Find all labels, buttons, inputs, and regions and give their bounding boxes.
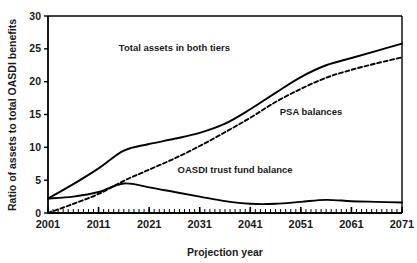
y-tick-label: 30 [29, 10, 41, 22]
x-tick-label: 2051 [289, 218, 313, 230]
x-tick-label: 2041 [238, 218, 262, 230]
x-tick-label: 2031 [187, 218, 211, 230]
x-tick-label: 2061 [339, 218, 363, 230]
y-tick-label: 10 [29, 141, 41, 153]
series-annotation-3: OASDI trust fund balance [178, 164, 293, 175]
line-chart: 051015202530 200120112021203120412051206… [0, 0, 417, 263]
series-annotation-2: PSA balances [280, 106, 342, 117]
y-tick-label: 20 [29, 75, 41, 87]
y-tick-label: 0 [35, 207, 41, 219]
x-tick-label: 2021 [137, 218, 161, 230]
y-tick-label: 15 [29, 108, 41, 120]
y-tick-label: 5 [35, 174, 41, 186]
x-tick-label: 2071 [390, 218, 414, 230]
series-annotation-1: Total assets in both tiers [119, 42, 230, 53]
chart-screenshot: 051015202530 200120112021203120412051206… [0, 0, 417, 263]
y-tick-label: 25 [29, 42, 41, 54]
x-tick-label: 2011 [87, 218, 111, 230]
x-tick-label: 2001 [36, 218, 60, 230]
x-axis-label: Projection year [187, 246, 263, 258]
y-axis-label: Ratio of assets to total OASDI benefits [6, 19, 18, 211]
